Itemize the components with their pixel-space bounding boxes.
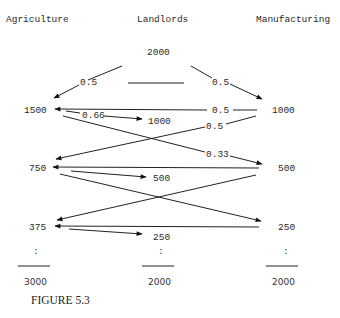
mfg-row1-value: 1000	[272, 105, 295, 116]
flow-label-mfg-to-ag-row1: 0.5	[212, 105, 229, 116]
mfg-total: 2000	[272, 277, 295, 287]
mfg-to-ag-row2-arrow	[53, 167, 259, 168]
figure-caption: FIGURE 5.3	[31, 294, 90, 306]
land-row2-value: 500	[153, 173, 170, 184]
ag-row2-value: 750	[29, 163, 46, 174]
land-to-mfg-line-a	[191, 66, 212, 78]
flow-label-ag-to-land: 0.66	[82, 110, 105, 121]
land-row1-value: 1000	[148, 116, 171, 127]
ag-to-land-row1-seg	[66, 111, 80, 113]
mfg-to-ag-row3-arrow	[55, 226, 259, 227]
mfg-row3-value: 250	[278, 222, 295, 233]
ag-row3-value: 375	[29, 222, 46, 233]
mfg-ellipsis: :	[283, 246, 289, 257]
land-ellipsis: :	[158, 246, 164, 257]
header-manufacturing: Manufacturing	[256, 14, 330, 25]
flow-label-mfg-to-ag-cross: 0.5	[206, 121, 223, 132]
land-to-ag-arrow	[54, 85, 79, 98]
header-landlords: Landlords	[137, 14, 188, 25]
flow-label-land-to-ag: 0.5	[80, 77, 97, 88]
ag-ellipsis: :	[33, 246, 39, 257]
ag-to-land-row3-arrow	[69, 229, 142, 234]
land-to-mfg-arrow	[230, 84, 262, 99]
landlords-initial-value: 2000	[147, 47, 170, 58]
mfg-to-ag-cross-seg	[226, 116, 256, 124]
ag-row1-value: 1500	[24, 105, 47, 116]
land-total: 2000	[148, 277, 171, 287]
ag-total: 3000	[24, 277, 47, 287]
flow-label-land-to-mfg: 0.5	[212, 77, 229, 88]
ag-to-mfg-cross-seg	[63, 116, 205, 152]
land-row3-value: 250	[153, 232, 170, 243]
header-agriculture: Agriculture	[6, 14, 69, 25]
ag-to-land-row1-arrow	[104, 116, 142, 119]
ag-to-mfg-cross-arrow	[230, 156, 262, 164]
ag-to-land-row2-arrow	[71, 171, 146, 177]
mfg-to-ag-row1-arrow	[55, 109, 207, 110]
flow-diagram: Agriculture Landlords Manufacturing 2000…	[0, 0, 340, 318]
mfg-row2-value: 500	[278, 163, 295, 174]
mfg-to-ag-cross-arrow	[56, 127, 205, 159]
flow-label-ag-to-mfg-cross: 0.33	[206, 149, 229, 160]
